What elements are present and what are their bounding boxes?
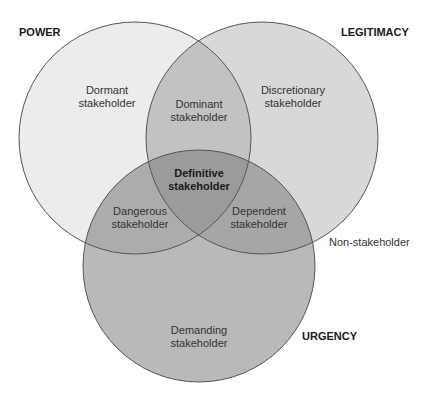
- dependent-label: Dependent stakeholder: [231, 205, 288, 231]
- dominant-line1: Dominant: [171, 98, 228, 111]
- power-set-label: POWER: [19, 26, 61, 38]
- dormant-label: Dormant stakeholder: [79, 84, 136, 110]
- discretionary-line2: stakeholder: [261, 97, 325, 110]
- dependent-line1: Dependent: [231, 205, 288, 218]
- urgency-set-label: URGENCY: [302, 330, 357, 342]
- definitive-line2: stakeholder: [168, 180, 230, 193]
- demanding-label: Demanding stakeholder: [171, 324, 228, 350]
- dangerous-label: Dangerous stakeholder: [112, 205, 169, 231]
- dangerous-line1: Dangerous: [112, 205, 169, 218]
- demanding-line2: stakeholder: [171, 337, 228, 350]
- non-stakeholder-label: Non-stakeholder: [329, 236, 410, 248]
- legitimacy-set-label: LEGITIMACY: [341, 26, 409, 38]
- demanding-line1: Demanding: [171, 324, 228, 337]
- dormant-line1: Dormant: [79, 84, 136, 97]
- dangerous-line2: stakeholder: [112, 218, 169, 231]
- dominant-line2: stakeholder: [171, 111, 228, 124]
- discretionary-label: Discretionary stakeholder: [261, 84, 325, 110]
- dominant-label: Dominant stakeholder: [171, 98, 228, 124]
- definitive-line1: Definitive: [168, 167, 230, 180]
- dependent-line2: stakeholder: [231, 218, 288, 231]
- discretionary-line1: Discretionary: [261, 84, 325, 97]
- definitive-label: Definitive stakeholder: [168, 167, 230, 193]
- dormant-line2: stakeholder: [79, 97, 136, 110]
